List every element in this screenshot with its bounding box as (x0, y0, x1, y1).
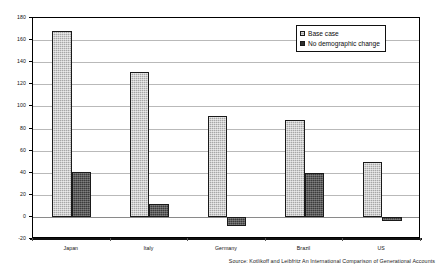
y-tick-mark (29, 105, 32, 106)
y-tick-label: 140 (0, 59, 26, 64)
y-tick-mark (29, 128, 32, 129)
y-tick-mark (29, 172, 32, 173)
y-axis-line (32, 17, 33, 238)
bar-germany-series-2 (227, 217, 246, 226)
generational-accounts-bar-chart: -20020406080100120140160180 JapanItalyGe… (0, 0, 443, 275)
y-tick-label: 60 (0, 147, 26, 152)
x-tick-mark (420, 238, 421, 241)
x-tick-label-germany: Germany (187, 245, 265, 251)
x-axis-line (30, 238, 422, 240)
y-tick-label: 40 (0, 169, 26, 174)
zero-gridline (33, 217, 419, 218)
x-tick-label-us: US (342, 245, 420, 251)
y-tick-label: 160 (0, 37, 26, 42)
y-tick-mark (29, 17, 32, 18)
gridline (33, 84, 419, 85)
gridline (33, 106, 419, 107)
legend-item-no-demographic-change: No demographic change (300, 39, 380, 48)
bar-us-series-2 (382, 217, 401, 221)
legend-label-base-case: Base case (308, 30, 339, 37)
y-tick-mark (29, 39, 32, 40)
y-tick-mark (29, 61, 32, 62)
bar-japan-series-2 (72, 172, 91, 217)
y-tick-mark (29, 83, 32, 84)
x-tick-mark (342, 238, 343, 241)
x-tick-label-italy: Italy (110, 245, 188, 251)
x-tick-mark (265, 238, 266, 241)
x-tick-label-brazil: Brazil (265, 245, 343, 251)
gridline (33, 62, 419, 63)
y-tick-label: 100 (0, 103, 26, 108)
y-tick-label: 80 (0, 125, 26, 130)
x-tick-mark (110, 238, 111, 241)
bar-brazil-series-2 (305, 173, 324, 217)
chart-legend: Base case No demographic change (296, 25, 386, 52)
x-tick-label-japan: Japan (32, 245, 110, 251)
legend-swatch-base-case-icon (300, 31, 305, 36)
y-tick-label: 20 (0, 191, 26, 196)
bar-italy-series-1 (130, 72, 149, 217)
y-tick-mark (29, 150, 32, 151)
legend-item-base-case: Base case (300, 29, 380, 38)
bar-italy-series-2 (149, 204, 168, 217)
source-note: Source: Kotlikoff and Leibfritz An Inter… (0, 258, 435, 264)
x-tick-mark (32, 238, 33, 241)
bar-us-series-1 (363, 162, 382, 217)
bar-germany-series-1 (208, 116, 227, 217)
y-tick-label: -20 (0, 236, 26, 241)
y-tick-mark (29, 216, 32, 217)
legend-label-no-demographic-change: No demographic change (308, 40, 380, 47)
x-tick-mark (187, 238, 188, 241)
y-tick-label: 120 (0, 81, 26, 86)
bar-japan-series-1 (52, 31, 71, 217)
y-tick-mark (29, 194, 32, 195)
bar-brazil-series-1 (285, 120, 304, 217)
y-tick-label: 180 (0, 15, 26, 20)
y-tick-label: 0 (0, 213, 26, 218)
legend-swatch-no-demographic-change-icon (300, 41, 305, 46)
